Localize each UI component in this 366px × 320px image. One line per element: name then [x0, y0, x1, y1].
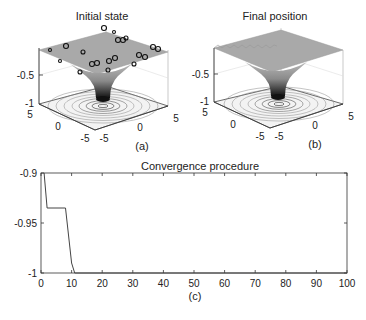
panel-a-ztick: -1	[25, 98, 34, 109]
panel-a-label: (a)	[135, 140, 148, 152]
panel-a-ytick: 5	[27, 109, 33, 120]
panel-b-label: (b)	[308, 138, 321, 150]
x-tick-label: 10	[66, 278, 78, 289]
panel-a: Initial state	[17, 10, 179, 152]
x-tick-label: 20	[97, 278, 109, 289]
panel-c: Convergence procedure 010203040506070809…	[14, 160, 356, 302]
panel-b-ytick: -5	[256, 131, 265, 142]
panel-b-ytick: 0	[230, 119, 236, 130]
x-tick-label: 50	[188, 278, 200, 289]
panel-b-xtick: 5	[348, 111, 354, 122]
panel-b-xtick: 0	[312, 120, 318, 131]
x-tick-label: 70	[250, 278, 262, 289]
y-tick-label: -1	[28, 268, 37, 279]
panel-b-xtick: -5	[275, 131, 284, 142]
y-tick-label: -0.95	[14, 218, 37, 229]
x-tick-label: 80	[280, 278, 292, 289]
panel-a-xtick: -5	[100, 133, 109, 144]
panel-b-ztick: -1	[200, 96, 209, 107]
x-tick-label: 60	[219, 278, 231, 289]
panel-b-ytick: 5	[202, 107, 208, 118]
panel-a-xtick: 0	[137, 122, 143, 133]
panel-b: Final position -0.5 -1 5 0 -5 -5 0	[192, 10, 354, 150]
x-tick-label: 90	[311, 278, 323, 289]
x-tick-label: 0	[38, 278, 44, 289]
panel-c-title: Convergence procedure	[141, 160, 259, 172]
x-tick-label: 100	[339, 278, 356, 289]
convergence-axes	[41, 173, 347, 273]
panel-a-ztick: -0.5	[17, 70, 35, 81]
panel-b-ztick: -0.5	[192, 69, 210, 80]
panel-a-xtick: 5	[173, 113, 179, 124]
panel-b-title: Final position	[243, 10, 308, 22]
x-tick-label: 30	[127, 278, 139, 289]
x-tick-label: 40	[158, 278, 170, 289]
panel-a-ytick: 0	[55, 121, 61, 132]
panel-a-ytick: -5	[81, 133, 90, 144]
y-tick-label: -0.9	[20, 168, 38, 179]
figure: Initial state	[0, 0, 366, 320]
panel-a-title: Initial state	[76, 10, 129, 22]
panel-c-label: (c)	[189, 290, 202, 302]
